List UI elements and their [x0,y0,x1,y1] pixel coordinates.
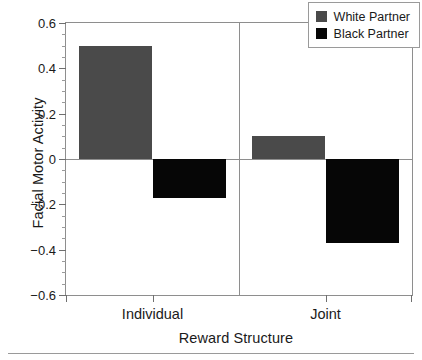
x-axis-edge-tick [411,295,412,302]
y-axis-tick [59,114,66,115]
y-axis-tick-label: −0.4 [30,242,56,257]
bar-individual-white-partner[interactable] [79,46,153,159]
y-axis-tick [59,23,66,24]
legend-label-white-partner: White Partner [334,10,410,24]
y-axis-minor-tick [62,136,66,137]
x-axis-edge-tick [66,295,67,302]
y-axis-minor-tick [62,46,66,47]
y-axis-minor-tick [62,238,66,239]
y-axis-tick [59,295,66,296]
footer-divider [8,353,414,354]
y-axis-tick [59,250,66,251]
x-axis-title: Reward Structure [56,330,416,346]
y-axis-tick [59,204,66,205]
y-axis-minor-tick [62,34,66,35]
y-axis-tick-label: −0.6 [30,288,56,303]
legend-item-black-partner[interactable]: Black Partner [316,25,410,42]
bar-joint-black-partner[interactable] [326,159,400,243]
y-axis-tick [59,159,66,160]
legend-swatch-black-partner [316,28,327,39]
x-axis-tick [326,295,327,302]
x-axis-tick [153,295,154,302]
figure: Facial Motor Activity 0.60.40.20−0.2−0.4… [0,0,422,360]
y-axis-tick-label: 0.6 [38,16,56,31]
y-axis-minor-tick [62,80,66,81]
y-axis-minor-tick [62,125,66,126]
plot-area: 0.60.40.20−0.2−0.4−0.6IndividualJoint [65,22,413,296]
legend-label-black-partner: Black Partner [334,27,409,41]
y-axis-minor-tick [62,193,66,194]
y-axis-minor-tick [62,272,66,273]
x-axis-tick-label: Joint [310,306,341,322]
y-axis-minor-tick [62,216,66,217]
y-axis-minor-tick [62,261,66,262]
y-axis-minor-tick [62,148,66,149]
y-axis-tick-label: 0.2 [38,106,56,121]
y-axis-tick [59,68,66,69]
legend: White Partner Black Partner [308,2,420,48]
y-axis-minor-tick [62,170,66,171]
bar-individual-black-partner[interactable] [153,159,227,198]
legend-item-white-partner[interactable]: White Partner [316,8,410,25]
y-axis-tick-label: 0.4 [38,61,56,76]
x-axis-tick-label: Individual [122,306,183,322]
y-axis-minor-tick [62,91,66,92]
y-axis-minor-tick [62,102,66,103]
legend-swatch-white-partner [316,11,327,22]
y-axis-tick-label: −0.2 [30,197,56,212]
y-axis-tick-label: 0 [49,152,56,167]
y-axis-minor-tick [62,182,66,183]
bar-joint-white-partner[interactable] [252,136,326,159]
y-axis-minor-tick [62,227,66,228]
y-axis-minor-tick [62,284,66,285]
group-divider [239,23,240,295]
y-axis-minor-tick [62,57,66,58]
